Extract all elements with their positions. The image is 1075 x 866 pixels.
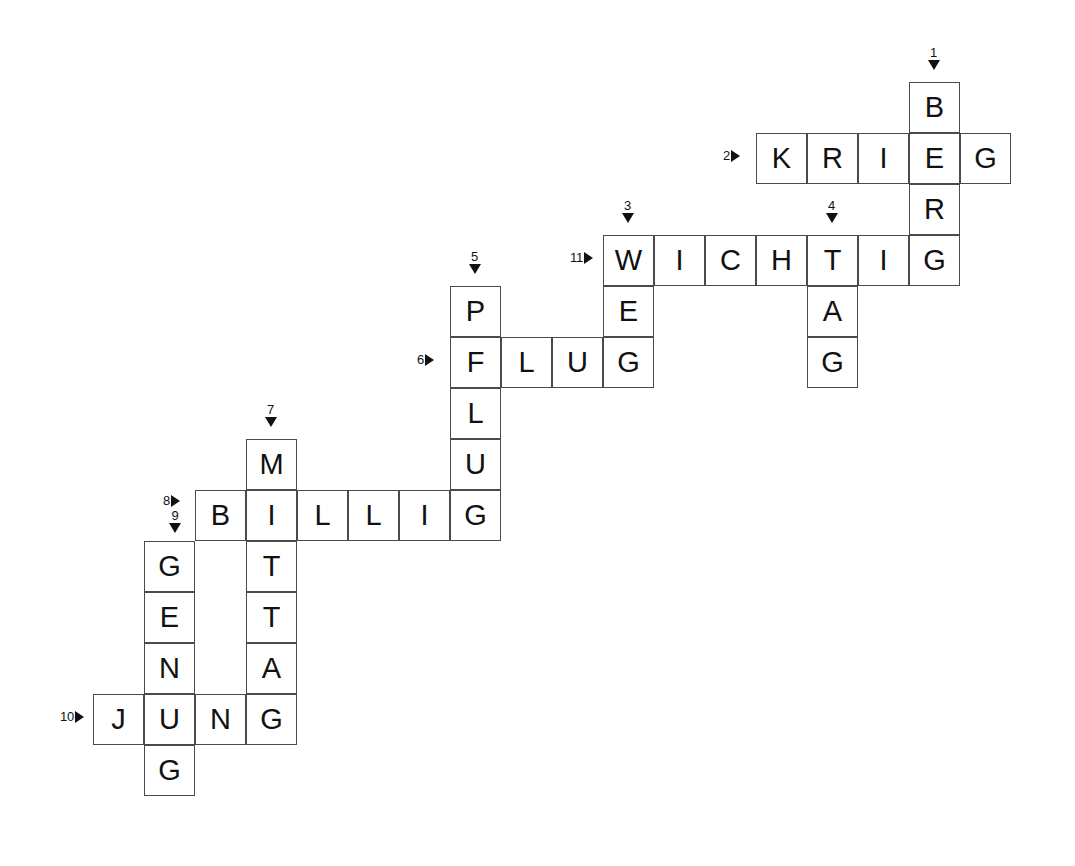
clue-marker-down-9[interactable]: 9 — [169, 509, 181, 533]
clue-marker-down-5[interactable]: 5 — [469, 250, 481, 274]
clue-marker-across-11[interactable]: 11 — [570, 251, 593, 264]
arrow-right-icon — [171, 495, 180, 507]
arrow-right-icon — [75, 711, 84, 723]
crossword-cell[interactable]: T — [246, 592, 297, 643]
clue-number: 9 — [172, 509, 179, 522]
clue-marker-across-6[interactable]: 6 — [417, 353, 434, 366]
arrow-right-icon — [584, 252, 593, 264]
crossword-cell[interactable]: G — [960, 133, 1011, 184]
crossword-cell[interactable]: W — [603, 235, 654, 286]
crossword-grid: BKRIEGRWICHTIGPEAFLUGGLMUBILLIGGTETNAJUN… — [0, 0, 1075, 866]
clue-marker-across-10[interactable]: 10 — [60, 710, 84, 723]
arrow-down-icon — [169, 523, 181, 533]
crossword-cell[interactable]: N — [195, 694, 246, 745]
crossword-cell[interactable]: M — [246, 439, 297, 490]
clue-number: 4 — [828, 199, 835, 212]
arrow-right-icon — [731, 150, 740, 162]
crossword-cell[interactable]: T — [807, 235, 858, 286]
crossword-cell[interactable]: B — [195, 490, 246, 541]
clue-marker-down-7[interactable]: 7 — [265, 403, 277, 427]
crossword-cell[interactable]: K — [756, 133, 807, 184]
crossword-cell[interactable]: I — [654, 235, 705, 286]
clue-marker-down-3[interactable]: 3 — [622, 199, 634, 223]
crossword-cell[interactable]: L — [450, 388, 501, 439]
crossword-cell[interactable]: N — [144, 643, 195, 694]
crossword-cell[interactable]: A — [246, 643, 297, 694]
crossword-cell[interactable]: T — [246, 541, 297, 592]
crossword-cell[interactable]: B — [909, 82, 960, 133]
crossword-cell[interactable]: R — [807, 133, 858, 184]
crossword-cell[interactable]: R — [909, 184, 960, 235]
arrow-down-icon — [469, 264, 481, 274]
crossword-cell[interactable]: I — [858, 133, 909, 184]
crossword-cell[interactable]: J — [93, 694, 144, 745]
clue-number: 11 — [570, 251, 583, 264]
crossword-cell[interactable]: C — [705, 235, 756, 286]
crossword-cell[interactable]: G — [144, 745, 195, 796]
crossword-cell[interactable]: A — [807, 286, 858, 337]
crossword-cell[interactable]: E — [603, 286, 654, 337]
crossword-cell[interactable]: I — [246, 490, 297, 541]
crossword-cell[interactable]: I — [399, 490, 450, 541]
clue-number: 1 — [930, 46, 937, 59]
clue-marker-down-4[interactable]: 4 — [826, 199, 838, 223]
arrow-right-icon — [425, 354, 434, 366]
crossword-cell[interactable]: U — [552, 337, 603, 388]
crossword-cell[interactable]: G — [144, 541, 195, 592]
crossword-cell[interactable]: G — [909, 235, 960, 286]
crossword-cell[interactable]: E — [144, 592, 195, 643]
crossword-cell[interactable]: I — [858, 235, 909, 286]
arrow-down-icon — [622, 213, 634, 223]
crossword-cell[interactable]: L — [501, 337, 552, 388]
clue-number: 2 — [723, 149, 730, 162]
clue-marker-across-8[interactable]: 8 — [163, 494, 180, 507]
crossword-cell[interactable]: L — [348, 490, 399, 541]
clue-number: 6 — [417, 353, 424, 366]
arrow-down-icon — [928, 60, 940, 70]
arrow-down-icon — [826, 213, 838, 223]
crossword-cell[interactable]: G — [450, 490, 501, 541]
crossword-cell[interactable]: E — [909, 133, 960, 184]
clue-number: 5 — [471, 250, 478, 263]
crossword-cell[interactable]: U — [450, 439, 501, 490]
clue-number: 7 — [267, 403, 274, 416]
crossword-cell[interactable]: U — [144, 694, 195, 745]
crossword-cell[interactable]: G — [246, 694, 297, 745]
arrow-down-icon — [265, 417, 277, 427]
crossword-cell[interactable]: L — [297, 490, 348, 541]
crossword-cell[interactable]: F — [450, 337, 501, 388]
clue-number: 10 — [60, 710, 74, 723]
clue-number: 8 — [163, 494, 170, 507]
crossword-cell[interactable]: G — [807, 337, 858, 388]
clue-number: 3 — [624, 199, 631, 212]
clue-marker-down-1[interactable]: 1 — [928, 46, 940, 70]
crossword-cell[interactable]: H — [756, 235, 807, 286]
crossword-cell[interactable]: G — [603, 337, 654, 388]
clue-marker-across-2[interactable]: 2 — [723, 149, 740, 162]
crossword-cell[interactable]: P — [450, 286, 501, 337]
